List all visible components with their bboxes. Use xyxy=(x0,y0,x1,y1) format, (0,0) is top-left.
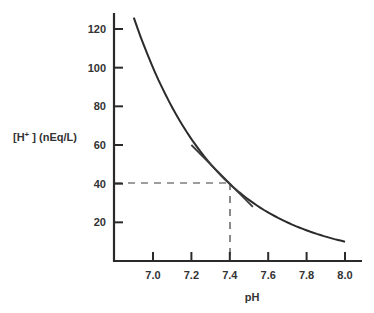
x-tick-label: 7.6 xyxy=(261,269,276,281)
x-tick-label: 7.8 xyxy=(299,269,314,281)
x-ticks: 7.07.27.47.67.88.0 xyxy=(145,252,352,281)
x-tick-label: 7.4 xyxy=(222,269,238,281)
y-tick-label: 20 xyxy=(94,216,106,228)
x-tick-label: 7.0 xyxy=(145,269,160,281)
y-tick-label: 40 xyxy=(94,178,106,190)
x-tick-label: 8.0 xyxy=(337,269,352,281)
y-tick-label: 120 xyxy=(88,23,106,35)
tangent-line xyxy=(191,145,252,207)
y-tick-label: 60 xyxy=(94,139,106,151)
y-axis-label: [H+ ] (nEq/L) xyxy=(13,130,77,143)
x-axis-label: pH xyxy=(245,291,260,303)
y-tick-label: 80 xyxy=(94,100,106,112)
x-tick-label: 7.2 xyxy=(184,269,199,281)
ph-hydrogen-ion-chart: 20406080100120 7.07.27.47.67.88.0 [H+ ] … xyxy=(0,0,374,313)
y-tick-label: 100 xyxy=(88,62,106,74)
y-ticks: 20406080100120 xyxy=(88,23,123,228)
h-ion-curve xyxy=(134,18,345,242)
